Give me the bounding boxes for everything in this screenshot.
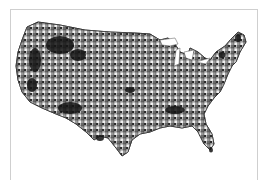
us-county-map	[0, 0, 268, 180]
